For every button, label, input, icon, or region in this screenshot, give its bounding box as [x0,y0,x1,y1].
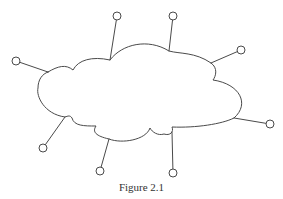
connector-right-lower [234,118,270,124]
connector-bottom-right [172,132,173,173]
node-bottom-middle-circle-icon [96,167,104,175]
node-top-left-circle-icon [113,12,121,20]
node-right-upper-circle-icon [237,46,245,54]
connector-left [16,61,48,72]
network-diagram [0,0,283,199]
connector-lines [16,16,270,173]
connector-bottom-left [43,117,65,148]
connector-top-right [169,16,173,51]
node-top-right-circle-icon [169,12,177,20]
connector-bottom-middle [100,139,109,171]
node-left-circle-icon [12,57,20,65]
node-bottom-right-circle-icon [169,169,177,177]
node-bottom-left-circle-icon [39,144,47,152]
nodes [12,12,274,177]
cloud-shape [38,44,242,141]
figure-caption: Figure 2.1 [0,181,283,193]
node-right-lower-circle-icon [266,120,274,128]
connector-right-upper [211,50,241,63]
